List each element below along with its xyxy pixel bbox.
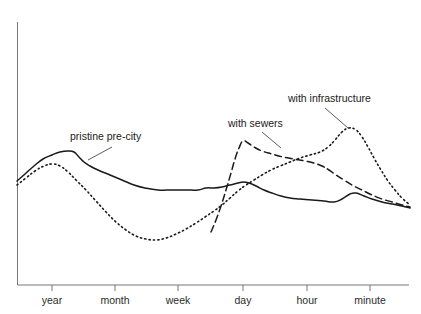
series-label-pristine-pre-city: pristine pre-city [70,130,142,142]
x-axis-tick-marks [52,285,370,291]
series-labels-group: pristine pre-citywith sewerswith infrast… [70,92,371,142]
x-tick-label-week: week [165,294,191,306]
series-label-with-infrastructure: with infrastructure [287,92,371,104]
x-tick-label-day: day [235,294,253,306]
leader-line-pristine-pre-city [88,147,112,160]
leader-line-with-sewers [262,132,281,148]
x-tick-label-minute: minute [354,294,386,306]
x-tick-label-year: year [42,294,63,306]
chart-container: yearmonthweekdayhourminute pristine pre-… [0,0,421,314]
leader-line-with-infrastructure [325,108,348,128]
series-label-with-sewers: with sewers [227,117,283,129]
x-tick-label-month: month [100,294,129,306]
series-curves-group [17,128,410,240]
axes-group: yearmonthweekdayhourminute [18,22,410,306]
x-tick-label-hour: hour [296,294,318,306]
x-axis-tick-labels: yearmonthweekdayhourminute [42,294,386,306]
line-chart: yearmonthweekdayhourminute pristine pre-… [0,0,421,314]
